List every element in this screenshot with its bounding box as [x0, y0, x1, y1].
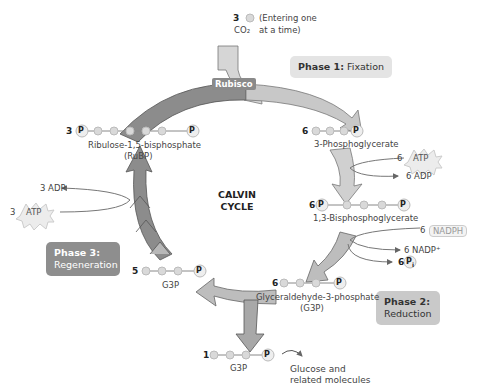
output-curl-arrow [282, 350, 302, 356]
nadph-label: NADPH [429, 225, 467, 237]
bpg-count: 6 [309, 200, 315, 210]
co2-molecule-icon [246, 14, 254, 22]
phase1-box: Phase 1: Fixation [290, 56, 392, 78]
output-line2: related molecules [290, 375, 370, 385]
g3p6-abbr: (G3P) [300, 303, 324, 313]
adp3-label: 3 ADP [40, 183, 66, 193]
pi-label: Pi [406, 257, 414, 270]
rubp-abbr: (RuBP) [124, 151, 153, 161]
phase3-title: Phase 3: [54, 247, 100, 258]
phase3-name: Regeneration [54, 259, 118, 270]
phase2-box: Phase 2: Reduction [376, 291, 440, 325]
bpg-name: 1,3-Bisphosphoglycerate [313, 213, 418, 223]
rubp-name: Ribulose-1,5-bisphosphate [88, 140, 201, 150]
g3p5-count: 5 [132, 266, 138, 276]
phosphate-icon: P [78, 126, 84, 136]
reduction-arrow-1 [330, 148, 362, 204]
g3p1-name: G3P [230, 363, 247, 373]
phosphate-icon: P [353, 126, 359, 136]
pga-count: 6 [302, 126, 308, 136]
adp6-label: 6 ADP [406, 171, 432, 181]
phosphate-icon: P [196, 266, 202, 276]
g3p1-count: 1 [203, 350, 209, 360]
phase2-name: Reduction [384, 308, 432, 319]
g3p6-name: Glyceraldehyde-3-phosphate [256, 292, 379, 302]
phase2-title: Phase 2: [384, 296, 430, 307]
regeneration-arrow-left [126, 146, 172, 260]
atp-adp-curve-1 [350, 158, 404, 176]
phase3-box: Phase 3: Regeneration [46, 242, 120, 276]
phase1-title: Phase 1: [298, 61, 344, 72]
phosphate-icon: P [264, 350, 270, 360]
atp6-count: 6 [397, 153, 402, 163]
phosphate-icon: P [336, 278, 342, 288]
rubisco-label: Rubisco [212, 78, 256, 90]
output-arrow [236, 300, 264, 352]
phosphate-icon: P [189, 126, 195, 136]
rubp-count: 3 [66, 126, 72, 136]
pga-name: 3-Phosphoglycerate [314, 139, 399, 149]
co2-note-line1: (Entering one [259, 13, 317, 23]
fixation-arc-dark [120, 84, 246, 142]
phosphate-icon: P [400, 200, 406, 210]
atp-adp-curve-left [60, 188, 130, 212]
output-line1: Glucose and [290, 364, 346, 374]
co2-note-line2: at a time) [259, 25, 301, 35]
atp3-label: ATP [26, 207, 41, 217]
g3p6-count: 6 [272, 278, 278, 288]
nadp-label: 6 NADP⁺ [404, 245, 440, 255]
phosphate-icon: P [318, 200, 324, 210]
co2-count: 3 [233, 13, 239, 23]
cycle-title: CALVIN CYCLE [218, 189, 256, 213]
phase1-name: Fixation [347, 61, 384, 72]
reduction-arrow-2 [306, 232, 356, 282]
pi-curve [348, 244, 392, 262]
g3p5-name: G3P [162, 280, 179, 290]
atp6-label: ATP [413, 153, 428, 163]
pi-count: 6 [398, 257, 404, 267]
co2-label: CO₂ [234, 25, 250, 35]
nadph-count: 6 [420, 225, 425, 235]
atp3-count: 3 [10, 207, 15, 217]
bpg-chain [316, 199, 410, 211]
